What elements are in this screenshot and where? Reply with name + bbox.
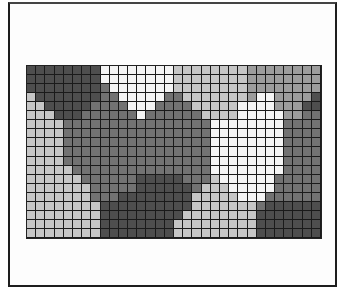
grid-cell bbox=[284, 175, 293, 184]
grid-cell bbox=[202, 84, 211, 93]
grid-cell bbox=[202, 93, 211, 102]
grid-cell bbox=[146, 102, 155, 111]
grid-cell bbox=[64, 147, 73, 156]
grid-cell bbox=[156, 166, 165, 175]
grid-cell bbox=[165, 175, 174, 184]
grid-cell bbox=[192, 220, 201, 229]
grid-cell bbox=[174, 229, 183, 238]
grid-cell bbox=[128, 75, 137, 84]
grid-cell bbox=[266, 229, 275, 238]
grid-cell bbox=[275, 120, 284, 129]
grid-cell bbox=[101, 193, 110, 202]
grid-cell bbox=[284, 84, 293, 93]
grid-cell bbox=[119, 184, 128, 193]
grid-cell bbox=[229, 166, 238, 175]
grid-cell bbox=[303, 193, 312, 202]
grid-cell bbox=[165, 111, 174, 120]
grid-cell bbox=[220, 93, 229, 102]
grid-cell bbox=[202, 111, 211, 120]
grid-cell bbox=[229, 93, 238, 102]
grid-cell bbox=[183, 147, 192, 156]
grid-cell bbox=[174, 75, 183, 84]
grid-cell bbox=[192, 202, 201, 211]
grid-cell bbox=[119, 129, 128, 138]
grid-cell bbox=[137, 193, 146, 202]
grid-cell bbox=[137, 111, 146, 120]
grid-cell bbox=[211, 120, 220, 129]
grid-cell bbox=[73, 202, 82, 211]
grid-cell bbox=[174, 157, 183, 166]
grid-cell bbox=[36, 93, 45, 102]
grid-cell bbox=[27, 202, 36, 211]
grid-cell bbox=[110, 120, 119, 129]
grid-cell bbox=[64, 66, 73, 75]
grid-cell bbox=[165, 138, 174, 147]
grid-cell bbox=[101, 138, 110, 147]
grid-cell bbox=[192, 184, 201, 193]
grid-cell bbox=[220, 66, 229, 75]
grid-cell bbox=[303, 211, 312, 220]
grid-cell bbox=[248, 220, 257, 229]
grid-cell bbox=[137, 129, 146, 138]
grid-cell bbox=[36, 211, 45, 220]
grid-cell bbox=[101, 229, 110, 238]
grid-cell bbox=[293, 75, 302, 84]
grid-cell bbox=[137, 166, 146, 175]
grid-cell bbox=[238, 111, 247, 120]
grid-cell bbox=[183, 66, 192, 75]
grid-cell bbox=[55, 93, 64, 102]
grid-cell bbox=[257, 202, 266, 211]
grid-cell bbox=[220, 184, 229, 193]
grid-cell bbox=[73, 93, 82, 102]
grid-cell bbox=[55, 157, 64, 166]
grid-cell bbox=[137, 93, 146, 102]
grid-cell bbox=[248, 229, 257, 238]
grid-cell bbox=[229, 184, 238, 193]
grid-cell bbox=[137, 220, 146, 229]
grid-cell bbox=[73, 138, 82, 147]
grid-cell bbox=[82, 138, 91, 147]
grid-cell bbox=[82, 193, 91, 202]
grid-cell bbox=[238, 84, 247, 93]
grid-cell bbox=[165, 84, 174, 93]
grid-cell bbox=[36, 138, 45, 147]
grid-cell bbox=[220, 211, 229, 220]
grid-cell bbox=[192, 102, 201, 111]
grid-cell bbox=[64, 120, 73, 129]
grid-cell bbox=[45, 202, 54, 211]
grid-cell bbox=[27, 111, 36, 120]
grid-cell bbox=[293, 138, 302, 147]
grid-cell bbox=[45, 84, 54, 93]
grid-cell bbox=[101, 84, 110, 93]
grid-cell bbox=[211, 157, 220, 166]
grid-cell bbox=[303, 84, 312, 93]
grid-cell bbox=[183, 157, 192, 166]
grid-cell bbox=[64, 111, 73, 120]
grid-cell bbox=[312, 157, 321, 166]
grid-cell bbox=[248, 129, 257, 138]
grid-cell bbox=[303, 111, 312, 120]
grid-cell bbox=[156, 184, 165, 193]
grid-cell bbox=[183, 184, 192, 193]
grid-cell bbox=[183, 193, 192, 202]
grid-cell bbox=[266, 166, 275, 175]
grid-cell bbox=[146, 129, 155, 138]
grid-cell bbox=[183, 211, 192, 220]
grid-cell bbox=[266, 120, 275, 129]
grid-cell bbox=[101, 66, 110, 75]
grid-cell bbox=[257, 138, 266, 147]
grid-cell bbox=[27, 75, 36, 84]
grid-cell bbox=[248, 175, 257, 184]
grid-cell bbox=[146, 84, 155, 93]
grid-cell bbox=[211, 202, 220, 211]
grid-cell bbox=[64, 229, 73, 238]
grid-cell bbox=[192, 129, 201, 138]
grid-cell bbox=[275, 211, 284, 220]
grid-cell bbox=[36, 66, 45, 75]
grid-cell bbox=[82, 84, 91, 93]
grid-cell bbox=[55, 129, 64, 138]
grid-cell bbox=[137, 75, 146, 84]
grid-cell bbox=[312, 166, 321, 175]
grid-cell bbox=[248, 75, 257, 84]
grid-cell bbox=[91, 157, 100, 166]
